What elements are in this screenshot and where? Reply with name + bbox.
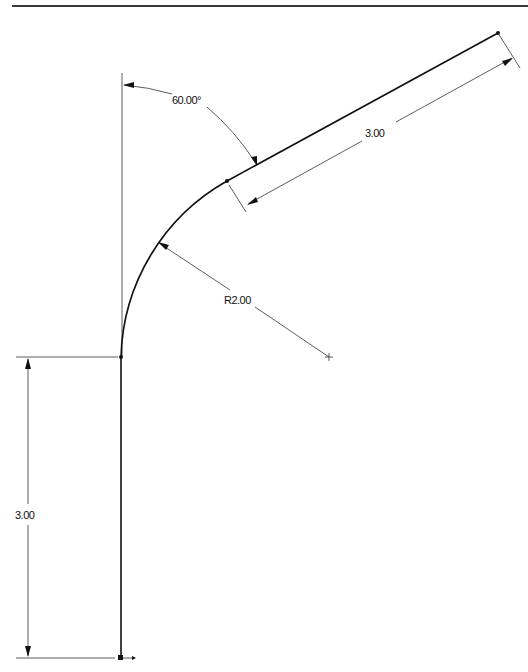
angle-dimension-label[interactable]: 60.00° bbox=[172, 94, 201, 106]
arc-segment[interactable] bbox=[121, 181, 227, 357]
length-ext-line-bottom bbox=[229, 185, 246, 212]
angle-arrow-left-icon bbox=[123, 82, 134, 88]
radius-leader-upper bbox=[159, 243, 230, 290]
length-ext-line-top bbox=[498, 33, 520, 68]
vertical-arrow-bottom-icon bbox=[25, 646, 31, 657]
length-dim-line-upper bbox=[396, 58, 512, 122]
radius-leader-lower bbox=[255, 307, 329, 357]
length-dimension-label[interactable]: 3.00 bbox=[365, 127, 385, 139]
length-arrow-lower-icon bbox=[247, 197, 258, 205]
angled-segment[interactable] bbox=[227, 33, 498, 181]
endpoint-arc-end[interactable] bbox=[225, 179, 229, 183]
angle-arrow-right-icon bbox=[251, 156, 257, 166]
vertical-arrow-top-icon bbox=[25, 358, 31, 369]
radius-dimension-label[interactable]: R2.00 bbox=[224, 294, 251, 306]
vertical-dimension-label[interactable]: 3.00 bbox=[15, 509, 35, 521]
origin-point[interactable] bbox=[118, 655, 123, 660]
angle-dim-arc-right bbox=[207, 107, 255, 162]
endpoint-arc-start[interactable] bbox=[119, 355, 123, 359]
length-arrow-upper-icon bbox=[502, 58, 513, 66]
sketch-drawing: 60.00° 3.00 R2.00 3.00 bbox=[0, 0, 528, 672]
length-dim-line-lower bbox=[248, 141, 362, 204]
origin-arrow-icon bbox=[132, 656, 136, 660]
